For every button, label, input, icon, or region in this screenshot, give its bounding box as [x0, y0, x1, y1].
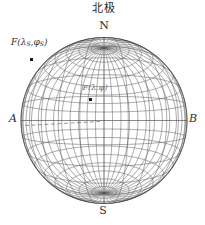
north-label: N	[99, 20, 109, 31]
satellite-point-marker	[30, 58, 33, 61]
south-label: S	[99, 205, 107, 216]
satellite-label-part: ,φ	[31, 37, 40, 47]
sight-dashed-line	[25, 122, 100, 126]
right-endpoint-label: B	[189, 113, 197, 124]
graticule-svg	[0, 0, 205, 225]
satellite-point-label: F(λS,φS)	[11, 38, 47, 47]
station-point-label: F(λ,φ)	[82, 84, 107, 92]
left-endpoint-label: A	[9, 113, 17, 124]
satellite-label-part: )	[44, 37, 48, 47]
station-point-marker	[89, 98, 92, 101]
globe-projection-figure: 北极 N S A B F(λS,φS) F(λ,φ)	[0, 0, 205, 225]
north-pole-cn-label: 北极	[92, 3, 116, 14]
satellite-label-part: F(λ	[11, 37, 26, 47]
